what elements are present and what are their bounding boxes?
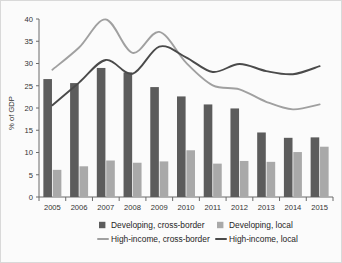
bar-2010-developing-local [186,150,195,197]
bar-2014-developing-local [293,152,302,197]
bar-2007-developing-cross-border [97,68,106,197]
bar-2005-developing-local [53,170,62,197]
legend-label-developing-local: Developing, local [229,220,293,230]
legend-label-developing-cross-border: Developing, cross-border [111,220,205,230]
chart-svg: 0510152025303540 20052006200720082009201… [1,1,342,263]
bar-series-group [43,68,328,197]
bar-2015-developing-local [320,147,329,197]
x-tick-label: 2005 [44,203,61,212]
bar-2015-developing-cross-border [311,137,320,197]
legend-swatch-developing-cross-border [99,222,105,228]
bar-2011-developing-cross-border [204,104,213,197]
bar-2013-developing-local [267,162,276,197]
y-axis-title: % of GDP [7,96,16,130]
bar-2014-developing-cross-border [284,138,293,197]
y-tick-label: 25 [25,82,33,91]
y-tick-label: 40 [25,15,33,24]
bar-2008-developing-cross-border [124,72,133,197]
x-tick-label: 2011 [205,203,221,212]
bar-2006-developing-local [79,166,88,197]
x-tick-label: 2009 [151,203,168,212]
legend-swatch-developing-local [217,222,223,228]
line-high-income-local [52,46,319,105]
x-tick-label: 2015 [311,203,328,212]
x-tick-label: 2012 [231,203,248,212]
x-axis: 2005200620072008200920102011201220132014… [39,197,333,212]
y-tick-label: 5 [29,171,33,180]
chart-legend: Developing, cross-borderDeveloping, loca… [98,220,298,244]
bar-2005-developing-cross-border [43,79,52,197]
x-tick-label: 2013 [258,203,275,212]
bar-2010-developing-cross-border [177,96,186,197]
bar-2011-developing-local [213,164,222,197]
y-tick-label: 0 [29,193,33,202]
x-tick-label: 2014 [284,203,301,212]
legend-label-high-income-local: High-income, local [229,234,298,244]
bar-2012-developing-cross-border [230,108,239,197]
bar-2009-developing-cross-border [150,87,159,197]
y-tick-label: 35 [25,37,33,46]
y-axis: 0510152025303540 [25,15,39,202]
x-tick-label: 2008 [124,203,141,212]
bar-2006-developing-cross-border [70,83,79,197]
y-tick-label: 20 [25,104,33,113]
x-tick-label: 2006 [71,203,88,212]
chart-figure: 0510152025303540 20052006200720082009201… [0,0,342,263]
bar-2012-developing-local [240,161,249,197]
y-tick-label: 10 [25,148,33,157]
bar-2009-developing-local [160,161,169,197]
chart-plot-area: 0510152025303540 20052006200720082009201… [1,1,342,263]
y-tick-label: 30 [25,59,33,68]
bar-2008-developing-local [133,163,142,197]
line-high-income-cross-border [52,19,319,109]
x-tick-label: 2010 [178,203,195,212]
bar-2013-developing-cross-border [257,132,266,197]
line-series-group [52,19,319,109]
bar-2007-developing-local [106,161,115,197]
legend-label-high-income-cross-border: High-income, cross-border [111,234,210,244]
y-tick-label: 15 [25,126,33,135]
x-tick-label: 2007 [97,203,114,212]
